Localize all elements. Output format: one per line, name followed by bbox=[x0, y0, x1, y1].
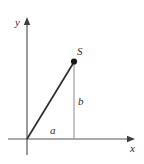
x-axis-label: x bbox=[130, 143, 135, 154]
y-axis-label: y bbox=[15, 17, 20, 28]
point-label-s: S bbox=[77, 46, 83, 57]
vector-diagram-figure: y x a b S bbox=[0, 0, 144, 164]
y-axis-arrowhead bbox=[24, 17, 30, 25]
vertical-component-label-b: b bbox=[78, 96, 84, 107]
diagram-canvas bbox=[0, 0, 144, 164]
point-s-marker bbox=[71, 58, 77, 64]
horizontal-component-label-a: a bbox=[50, 125, 56, 136]
